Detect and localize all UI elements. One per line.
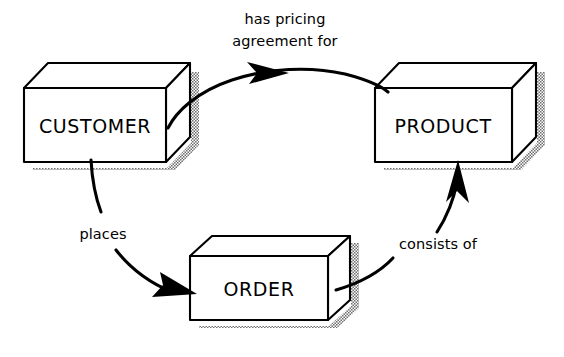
- consists-of-label: consists of: [399, 236, 478, 252]
- consists-of-arrowhead: [446, 160, 469, 203]
- diagram-canvas: CUSTOMER PRODUCT ORDER has pricing agree…: [0, 0, 564, 357]
- entity-box-product[interactable]: PRODUCT: [375, 63, 536, 162]
- product-label: PRODUCT: [394, 115, 491, 137]
- customer-top-face: [24, 63, 190, 88]
- pricing-agreement-label-line1: has pricing: [245, 11, 326, 27]
- pricing-agreement-curve: [168, 69, 388, 128]
- relationship-pricing-agreement[interactable]: has pricing agreement for: [168, 11, 388, 128]
- er-diagram: CUSTOMER PRODUCT ORDER has pricing agree…: [0, 0, 564, 357]
- pricing-agreement-label-line2: agreement for: [232, 33, 337, 49]
- relationship-places[interactable]: places: [79, 160, 197, 297]
- places-curve-upper: [91, 160, 101, 212]
- entity-box-customer[interactable]: CUSTOMER: [24, 63, 190, 162]
- product-top-face: [375, 63, 536, 88]
- customer-label: CUSTOMER: [39, 115, 151, 137]
- order-label: ORDER: [224, 278, 295, 300]
- places-label: places: [79, 226, 126, 242]
- entity-box-order[interactable]: ORDER: [190, 236, 350, 320]
- order-top-face: [190, 236, 350, 256]
